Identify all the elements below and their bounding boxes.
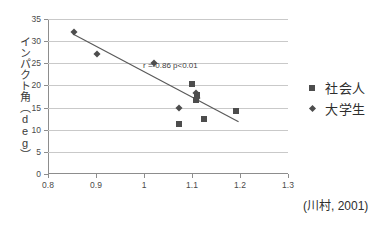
- correlation-annotation: r =-0.86 p<0.01: [143, 61, 198, 70]
- y-tick-label: 35: [32, 14, 41, 24]
- x-tick-mark: [144, 174, 145, 178]
- x-tick-mark: [192, 174, 193, 178]
- y-tick-label: 15: [32, 103, 41, 113]
- trend-line: [48, 19, 288, 174]
- x-tick-label: 1.2: [234, 180, 246, 190]
- y-tick-label: 0: [36, 169, 41, 179]
- y-tick-label: 10: [32, 125, 41, 135]
- x-tick-mark: [48, 174, 49, 178]
- y-tick-label: 30: [32, 36, 41, 46]
- legend-label-shakaijin: 社会人: [325, 78, 366, 97]
- x-tick-mark: [96, 174, 97, 178]
- data-point-square: [176, 121, 182, 127]
- diamond-marker-icon: [306, 103, 318, 115]
- x-tick-label: 1: [142, 180, 147, 190]
- legend-item-shakaijin: 社会人: [306, 79, 366, 96]
- y-tick-label: 25: [32, 58, 41, 68]
- legend-item-daigakusei: 大学生: [306, 100, 366, 117]
- x-tick-label: 0.9: [90, 180, 102, 190]
- data-point-square: [201, 116, 207, 122]
- chart-figure: インパクト角（deg） 05101520253035 0.80.911.11.2…: [0, 0, 392, 226]
- x-tick-mark: [240, 174, 241, 178]
- square-marker-icon: [306, 82, 318, 94]
- x-tick-mark: [288, 174, 289, 178]
- y-tick-label: 5: [36, 147, 41, 157]
- plot-area: 05101520253035 0.80.911.11.21.3 r =-0.86…: [48, 19, 288, 174]
- x-tick-label: 1.3: [282, 180, 294, 190]
- y-tick-label: 20: [32, 80, 41, 90]
- data-point-square: [233, 108, 239, 114]
- chart-legend: 社会人 大学生: [306, 79, 366, 117]
- legend-label-daigakusei: 大学生: [325, 99, 366, 118]
- source-citation: (川村, 2001): [303, 196, 368, 213]
- x-tick-label: 1.1: [186, 180, 198, 190]
- data-point-square: [189, 81, 195, 87]
- x-tick-label: 0.8: [42, 180, 54, 190]
